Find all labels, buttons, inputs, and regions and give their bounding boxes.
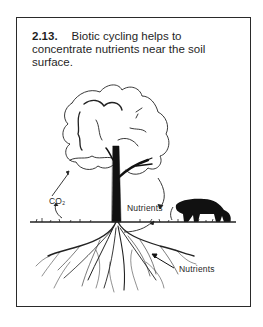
nutrients-label-upper: Nutrients (127, 203, 163, 213)
nutrients-label-lower: Nutrients (179, 264, 215, 274)
biotic-cycling-illustration (0, 0, 263, 327)
co2-label: CO2 (49, 196, 65, 206)
co2-subscript: 2 (62, 200, 65, 206)
grazing-cow (176, 199, 231, 222)
ground-line (30, 218, 236, 222)
root-system (36, 222, 196, 292)
co2-text: CO (49, 196, 62, 206)
